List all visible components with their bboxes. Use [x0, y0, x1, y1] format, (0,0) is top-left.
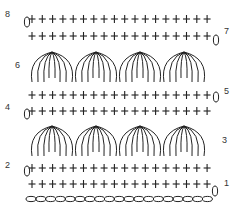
shell-stitch-icon [96, 126, 99, 152]
row-7-stitch [121, 32, 128, 40]
chain-stitch-icon [134, 196, 144, 201]
row-7-stitch [183, 32, 190, 40]
row-4-stitch [173, 107, 180, 115]
row-1-stitch [70, 180, 77, 188]
row-4-stitch [101, 107, 108, 115]
row-4-stitch [132, 107, 139, 115]
row-label-8: 8 [5, 9, 10, 19]
shell-stitch-icon [184, 52, 187, 78]
shell-stitch-icon [140, 52, 143, 78]
row-2-stitch [101, 164, 108, 172]
chain-stitch-icon [65, 196, 75, 201]
row-5-stitch [162, 91, 169, 99]
row-8-stitch [132, 15, 139, 23]
row-4-stitch [90, 107, 97, 115]
shell-stitch-icon [49, 126, 52, 152]
row-8-stitch [152, 15, 159, 23]
crochet-chart [0, 0, 239, 215]
row-7-stitch [90, 32, 97, 40]
row-5-stitch [183, 91, 190, 99]
row-1-stitch [90, 180, 97, 188]
row-5-stitch [59, 91, 66, 99]
row-5-stitch [193, 91, 200, 99]
row-8-stitch [162, 15, 169, 23]
row-5-stitch [101, 91, 108, 99]
row-7-stitch [204, 32, 211, 40]
row-5-stitch [204, 91, 211, 99]
shell-stitch-icon [181, 126, 184, 152]
row-8-stitch [59, 15, 66, 23]
row-7-stitch [152, 32, 159, 40]
row-4-stitch [121, 107, 128, 115]
row-7-stitch [193, 32, 200, 40]
row-5-stitch [90, 91, 97, 99]
chain-stitch-icon [36, 196, 46, 201]
shell-stitch-icon [96, 52, 99, 78]
turning-chain-icon [212, 186, 217, 196]
row-2-stitch [173, 164, 180, 172]
shell-stitch-icon [181, 52, 184, 78]
row-2-stitch [193, 164, 200, 172]
row-2-stitch [132, 164, 139, 172]
shell-stitch-icon [140, 126, 143, 152]
row-label-1: 1 [224, 178, 229, 188]
chain-stitch-icon [193, 196, 203, 201]
row-label-7: 7 [224, 26, 229, 36]
row-2-stitch [90, 164, 97, 172]
chain-stitch-icon [104, 196, 114, 201]
row-2-stitch [70, 164, 77, 172]
row-1-stitch [193, 180, 200, 188]
row-2-stitch [121, 164, 128, 172]
chain-stitch-icon [55, 196, 65, 201]
row-5-stitch [132, 91, 139, 99]
row-label-6: 6 [15, 60, 20, 70]
row-2-stitch [162, 164, 169, 172]
row-2-stitch [80, 164, 87, 172]
row-1-stitch [162, 180, 169, 188]
row-5-stitch [70, 91, 77, 99]
row-7-stitch [162, 32, 169, 40]
chain-stitch-icon [183, 196, 193, 201]
row-2-stitch [204, 164, 211, 172]
shell-stitch-icon [52, 126, 55, 152]
shell-stitch-icon [93, 52, 96, 78]
row-5-stitch [121, 91, 128, 99]
row-8-stitch [121, 15, 128, 23]
row-4-stitch [70, 107, 77, 115]
row-4-stitch [39, 107, 46, 115]
chain-stitch-icon [202, 196, 212, 201]
row-4-stitch [111, 107, 118, 115]
row-7-stitch [80, 32, 87, 40]
row-1-stitch [173, 180, 180, 188]
row-7-stitch [29, 32, 36, 40]
row-7-stitch [111, 32, 118, 40]
row-2-stitch [49, 164, 56, 172]
row-2-stitch [183, 164, 190, 172]
chain-stitch-icon [173, 196, 183, 201]
turning-chain-icon [24, 109, 29, 119]
shell-stitch-icon [52, 52, 55, 78]
row-1-stitch [152, 180, 159, 188]
shell-stitch-icon [137, 52, 140, 78]
row-1-stitch [59, 180, 66, 188]
row-1-stitch [29, 180, 36, 188]
row-8-stitch [70, 15, 77, 23]
row-1-stitch [49, 180, 56, 188]
row-7-stitch [101, 32, 108, 40]
shell-stitch-icon [184, 126, 187, 152]
row-7-stitch [39, 32, 46, 40]
row-5-stitch [111, 91, 118, 99]
chain-stitch-icon [26, 196, 36, 201]
row-8-stitch [101, 15, 108, 23]
row-7-stitch [70, 32, 77, 40]
chain-stitch-icon [75, 196, 85, 201]
chain-stitch-icon [163, 196, 173, 201]
row-4-stitch [59, 107, 66, 115]
turning-chain-icon [213, 35, 218, 45]
row-1-stitch [101, 180, 108, 188]
row-5-stitch [80, 91, 87, 99]
row-4-stitch [162, 107, 169, 115]
shell-stitch-icon [49, 52, 52, 78]
row-5-stitch [173, 91, 180, 99]
row-7-stitch [142, 32, 149, 40]
